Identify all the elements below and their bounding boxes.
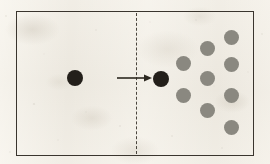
gray-col2-top bbox=[200, 41, 215, 56]
gray-col3-3 bbox=[224, 88, 239, 103]
gray-col3-4 bbox=[224, 120, 239, 135]
gray-col2-bottom bbox=[200, 103, 215, 118]
gray-col3-1 bbox=[224, 30, 239, 45]
outer-rectangle-frame bbox=[16, 11, 254, 156]
transmitted-particle bbox=[153, 71, 169, 87]
gray-col1-top bbox=[176, 56, 191, 71]
gray-col1-bottom bbox=[176, 88, 191, 103]
gray-col3-2 bbox=[224, 57, 239, 72]
figure-canvas bbox=[0, 0, 270, 164]
dashed-boundary-line bbox=[136, 13, 137, 154]
incoming-particle bbox=[67, 70, 83, 86]
gray-col2-middle bbox=[200, 71, 215, 86]
